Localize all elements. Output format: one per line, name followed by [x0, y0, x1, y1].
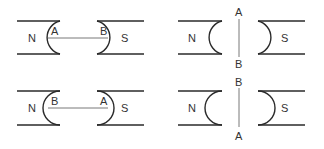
wire-end-label-left: A — [51, 25, 59, 37]
wire-end-label-right: A — [100, 95, 108, 107]
magnet-diagram: N S A B N S A B — [0, 0, 324, 149]
north-label: N — [28, 32, 36, 44]
panel-bottom-left: N S B A — [17, 91, 144, 125]
wire-end-label-bottom: B — [235, 58, 242, 70]
north-pole-magnet — [178, 91, 222, 125]
panel-top-left: N S A B — [17, 21, 144, 54]
wire-end-label-left: B — [51, 95, 58, 107]
south-label: S — [281, 102, 288, 114]
wire-end-label-top: B — [235, 76, 242, 88]
wire-end-label-bottom: A — [235, 130, 243, 142]
north-label: N — [28, 102, 36, 114]
south-label: S — [281, 32, 288, 44]
south-label: S — [121, 32, 128, 44]
south-label: S — [121, 102, 128, 114]
north-label: N — [188, 32, 196, 44]
wire-end-label-top: A — [235, 6, 243, 18]
panel-bottom-right: N S B A — [178, 76, 305, 142]
north-label: N — [188, 102, 196, 114]
panel-top-right: N S A B — [178, 6, 305, 70]
wire-end-label-right: B — [100, 25, 107, 37]
north-pole-magnet — [178, 21, 222, 54]
